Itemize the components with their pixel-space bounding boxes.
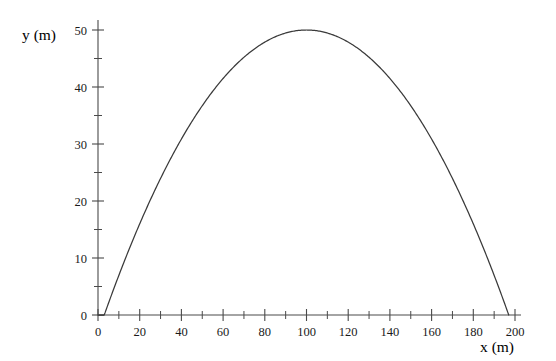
y-tick-label: 40 [75,81,88,95]
x-tick-label: 60 [217,325,230,339]
x-tick-label: 0 [95,325,101,339]
x-axis-label: x (m) [480,338,514,356]
x-tick-label: 40 [175,325,188,339]
x-tick-label: 160 [422,325,441,339]
x-tick-label: 140 [381,325,400,339]
y-tick-label: 50 [75,24,88,38]
x-tick-label: 20 [133,325,146,339]
y-tick-label: 20 [75,195,88,209]
x-tick-label: 120 [339,325,358,339]
x-tick-label: 200 [506,325,525,339]
y-tick-label: 10 [75,252,88,266]
chart-background [0,0,556,361]
x-tick-label: 100 [297,325,316,339]
y-axis-label: y (m) [22,26,56,44]
x-tick-label: 80 [259,325,272,339]
y-tick-label: 0 [81,309,87,323]
trajectory-chart: 01020304050 020406080100120140160180200 … [0,0,556,361]
x-tick-label: 180 [464,325,483,339]
y-tick-label: 30 [75,138,88,152]
chart-svg: 01020304050 020406080100120140160180200 … [0,0,556,361]
